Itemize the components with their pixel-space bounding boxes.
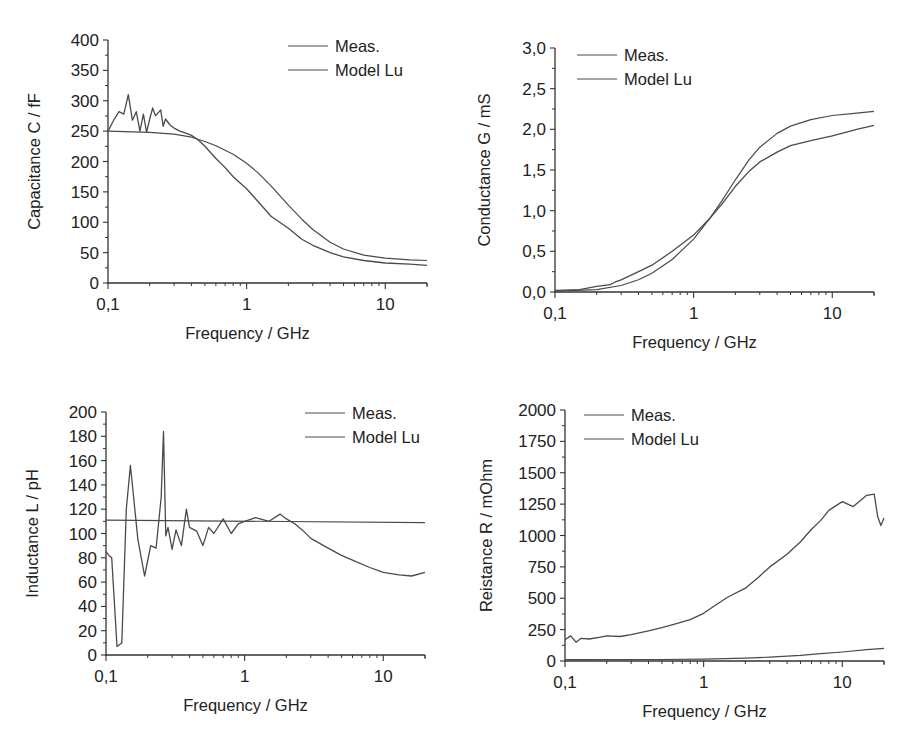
- y-tick-label: 120: [69, 500, 97, 519]
- y-tick-label: 150: [71, 183, 99, 202]
- y-tick-label: 0: [547, 652, 556, 671]
- series-measured: [555, 125, 874, 290]
- series-measured: [565, 494, 884, 642]
- y-tick-label: 60: [78, 573, 97, 592]
- x-tick-label: 1: [699, 673, 708, 692]
- y-tick-label: 1500: [518, 464, 556, 483]
- x-tick-label: 10: [376, 295, 395, 314]
- y-tick-label: 160: [69, 452, 97, 471]
- legend-label: Meas.: [352, 404, 397, 422]
- y-tick-label: 100: [69, 525, 97, 544]
- y-axis-label: Capacitance C / fF: [25, 93, 43, 230]
- y-tick-label: 100: [71, 213, 99, 232]
- legend-label: Meas.: [624, 46, 669, 64]
- y-tick-label: 40: [78, 597, 97, 616]
- x-axis-label: Frequency / GHz: [183, 696, 308, 714]
- legend: Meas.Model Lu: [305, 404, 420, 446]
- x-tick-label: 0,1: [94, 667, 118, 686]
- y-tick-label: 0: [90, 274, 99, 293]
- y-tick-label: 1,5: [522, 161, 546, 180]
- y-tick-label: 3,0: [522, 39, 546, 58]
- y-tick-label: 80: [78, 549, 97, 568]
- chart-capacitance: 0501001502002503003504000,1110Frequency …: [0, 0, 452, 372]
- chart-conductance: 0,00,51,01,52,02,53,00,1110Frequency / G…: [452, 0, 904, 372]
- legend: Meas.Model Lu: [577, 46, 692, 88]
- series-measured: [106, 431, 425, 646]
- chart-inductance: 0204060801001201401601802000,1110Frequen…: [0, 372, 452, 744]
- x-tick-label: 10: [374, 667, 393, 686]
- y-tick-label: 1750: [518, 432, 556, 451]
- y-tick-label: 20: [78, 622, 97, 641]
- chart-svg: 0250500750100012501500175020000,1110Freq…: [452, 372, 904, 744]
- x-tick-label: 10: [823, 304, 842, 323]
- y-tick-label: 0,0: [522, 283, 546, 302]
- y-tick-label: 300: [71, 92, 99, 111]
- y-tick-label: 350: [71, 61, 99, 80]
- y-tick-label: 400: [71, 31, 99, 50]
- legend-label: Model Lu: [352, 428, 420, 446]
- y-tick-label: 180: [69, 427, 97, 446]
- series-model-lu: [565, 648, 884, 659]
- y-tick-label: 0: [88, 646, 97, 665]
- y-tick-label: 2000: [518, 401, 556, 420]
- y-axis-label: Reistance R / mOhm: [477, 459, 495, 612]
- y-axis-label: Conductance G / mS: [475, 93, 493, 246]
- y-tick-label: 50: [80, 244, 99, 263]
- x-tick-label: 1: [242, 295, 251, 314]
- y-tick-label: 140: [69, 476, 97, 495]
- legend-label: Meas.: [631, 406, 676, 424]
- y-tick-label: 200: [69, 403, 97, 422]
- legend-label: Model Lu: [624, 70, 692, 88]
- y-tick-label: 500: [528, 589, 556, 608]
- x-tick-label: 0,1: [96, 295, 120, 314]
- y-tick-label: 1250: [518, 495, 556, 514]
- y-tick-label: 250: [528, 621, 556, 640]
- x-tick-label: 10: [833, 673, 852, 692]
- y-tick-label: 2,5: [522, 80, 546, 99]
- chart-svg: 0501001502002503003504000,1110Frequency …: [0, 0, 452, 372]
- x-tick-label: 0,1: [543, 304, 567, 323]
- chart-svg: 0,00,51,01,52,02,53,00,1110Frequency / G…: [452, 0, 904, 372]
- legend-label: Model Lu: [335, 61, 403, 79]
- chart-resistance: 0250500750100012501500175020000,1110Freq…: [452, 372, 904, 744]
- x-tick-label: 1: [240, 667, 249, 686]
- y-tick-label: 2,0: [522, 120, 546, 139]
- chart-svg: 0204060801001201401601802000,1110Frequen…: [0, 372, 452, 744]
- x-axis-label: Frequency / GHz: [185, 324, 310, 342]
- y-tick-label: 1,0: [522, 202, 546, 221]
- series-model-lu: [108, 131, 427, 260]
- legend-label: Model Lu: [631, 430, 699, 448]
- y-tick-label: 750: [528, 558, 556, 577]
- y-tick-label: 1000: [518, 527, 556, 546]
- legend: Meas.Model Lu: [288, 37, 403, 79]
- series-model-lu: [555, 111, 874, 291]
- y-tick-label: 250: [71, 122, 99, 141]
- x-tick-label: 1: [689, 304, 698, 323]
- legend: Meas.Model Lu: [584, 406, 699, 448]
- y-tick-label: 200: [71, 153, 99, 172]
- legend-label: Meas.: [335, 37, 380, 55]
- y-tick-label: 0,5: [522, 242, 546, 261]
- x-axis-label: Frequency / GHz: [632, 333, 757, 351]
- x-axis-label: Frequency / GHz: [642, 702, 767, 720]
- series-measured: [108, 95, 427, 266]
- x-tick-label: 0,1: [553, 673, 577, 692]
- y-axis-label: Inductance L / pH: [23, 469, 41, 598]
